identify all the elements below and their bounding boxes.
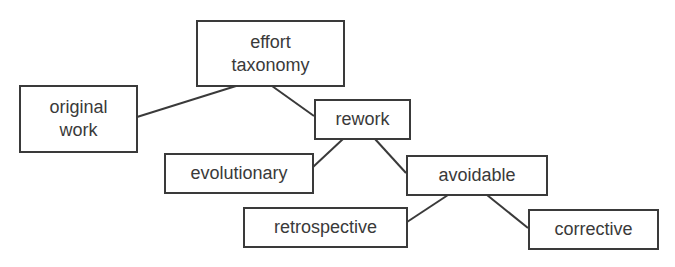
node-rework: rework: [314, 99, 411, 140]
node-label-line2: work: [49, 119, 107, 142]
node-corrective: corrective: [528, 209, 659, 250]
node-retrospective: retrospective: [243, 207, 408, 248]
node-label: avoidable: [438, 164, 515, 187]
edge-avoidable-retrospective: [407, 195, 448, 222]
edge-rework-evolutionary: [313, 139, 343, 167]
node-label-line1: effort: [231, 31, 309, 54]
node-label-line2: taxonomy: [231, 54, 309, 77]
node-label: rework: [335, 108, 389, 131]
edge-rework-avoidable: [375, 139, 406, 173]
node-effort-taxonomy: effort taxonomy: [196, 20, 345, 87]
edge-effort-original: [137, 86, 236, 117]
node-original-work: original work: [19, 85, 138, 153]
node-evolutionary: evolutionary: [164, 153, 314, 194]
edge-effort-rework: [272, 86, 314, 116]
node-avoidable: avoidable: [406, 155, 548, 196]
node-label-line1: original: [49, 96, 107, 119]
edge-avoidable-corrective: [487, 195, 528, 228]
node-label: evolutionary: [190, 162, 287, 185]
node-label: retrospective: [274, 216, 377, 239]
node-label: corrective: [554, 218, 632, 241]
